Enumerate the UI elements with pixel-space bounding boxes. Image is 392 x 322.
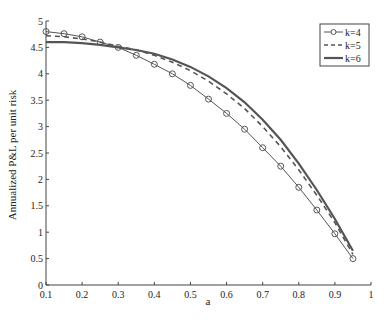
- legend: k=4k=5k=6: [320, 24, 369, 66]
- legend-label: k=6: [345, 53, 361, 64]
- y-tick-label: 4: [38, 68, 43, 79]
- x-tick-label: 0.3: [112, 289, 125, 300]
- legend-label: k=4: [345, 27, 361, 38]
- x-tick-label: 1: [369, 289, 374, 300]
- y-tick-label: 2.5: [31, 148, 44, 159]
- legend-label: k=5: [345, 40, 361, 51]
- y-tick-label: 0.5: [31, 253, 44, 264]
- y-tick-label: 0: [38, 280, 43, 291]
- x-axis-label: a: [206, 295, 211, 307]
- y-tick-label: 3.5: [31, 95, 44, 106]
- y-tick-label: 3: [38, 121, 43, 132]
- data-marker: [350, 256, 356, 262]
- x-tick-label: 0.2: [76, 289, 89, 300]
- y-tick-label: 5: [38, 16, 43, 27]
- y-tick-label: 4.5: [31, 42, 44, 53]
- x-tick-label: 0.1: [40, 289, 53, 300]
- line-chart: 0.10.20.30.40.50.60.70.80.9100.511.522.5…: [0, 0, 392, 322]
- x-tick-label: 0.9: [329, 289, 342, 300]
- y-tick-label: 1.5: [31, 200, 44, 211]
- y-tick-label: 2: [38, 174, 43, 185]
- x-tick-label: 0.7: [256, 289, 269, 300]
- plot-area: [43, 29, 356, 262]
- series-line-k=4: [46, 32, 353, 259]
- y-axis-label: Annualized P&L per unit risk: [6, 89, 18, 220]
- series-line-k=5: [46, 36, 353, 255]
- y-tick-label: 1: [38, 227, 43, 238]
- x-tick-label: 0.4: [148, 289, 161, 300]
- x-tick-label: 0.6: [220, 289, 233, 300]
- series-line-k=6: [46, 42, 353, 251]
- x-tick-label: 0.8: [293, 289, 306, 300]
- x-tick-label: 0.5: [184, 289, 197, 300]
